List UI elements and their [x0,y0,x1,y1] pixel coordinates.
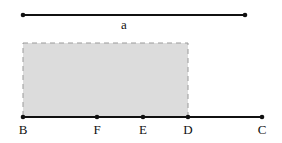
shaded-rectangle [23,43,188,117]
point-d-dot [186,115,191,120]
point-e-dot [141,115,146,120]
point-c-dot [260,115,265,120]
point-e-label: E [139,123,147,136]
point-b-dot [21,115,26,120]
segment-a-label: a [121,18,127,31]
point-f-label: F [93,123,100,136]
point-b-label: B [19,123,28,136]
point-f-dot [95,115,100,120]
point-c-label: C [258,123,267,136]
segment-a-start-dot [21,13,26,18]
point-d-label: D [183,123,192,136]
segment-a-end-dot [243,13,248,18]
